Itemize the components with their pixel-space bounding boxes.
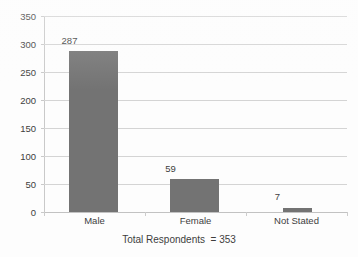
x-tick-mark-end (347, 212, 348, 216)
x-tick-mark-1 (145, 212, 146, 216)
y-tick-label-0: 0 (6, 208, 36, 218)
y-tick-label-200: 200 (6, 96, 36, 106)
bar-female[interactable] (170, 179, 219, 212)
plot-area (44, 16, 347, 212)
x-tick-label-female: Female (165, 216, 226, 226)
y-tick-label-300: 300 (6, 40, 36, 50)
gridline-300 (44, 44, 347, 45)
y-tick-label-50: 50 (6, 180, 36, 190)
x-tick-mark-2 (246, 212, 247, 216)
y-tick-label-100: 100 (6, 152, 36, 162)
y-axis-tick-labels: 350 300 250 200 150 100 50 0 (0, 0, 38, 257)
bar-value-male: 287 (50, 36, 89, 46)
bar-male[interactable] (69, 51, 118, 212)
bar-chart: 350 300 250 200 150 100 50 0 287 59 7 (0, 0, 358, 257)
bar-value-female: 59 (151, 164, 190, 174)
bar-value-not-stated: 7 (268, 192, 287, 202)
total-respondents-caption: Total Respondents = 353 (0, 234, 358, 245)
x-tick-label-not-stated: Not Stated (266, 216, 327, 226)
y-tick-label-250: 250 (6, 68, 36, 78)
y-tick-label-350: 350 (6, 12, 36, 22)
x-tick-label-male: Male (64, 216, 125, 226)
x-tick-mark-start (44, 212, 45, 216)
y-tick-label-150: 150 (6, 124, 36, 134)
x-axis-line (44, 212, 347, 213)
gridline-350 (44, 16, 347, 17)
